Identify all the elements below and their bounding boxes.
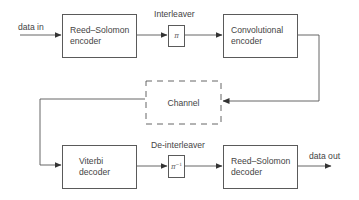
deinterleaver-block: π−1 xyxy=(168,155,185,178)
rs-encoder-block: Reed–Solomon encoder xyxy=(62,14,137,58)
convolutional-encoder-block: Convolutional encoder xyxy=(223,14,298,58)
rs-encoder-label: Reed–Solomon encoder xyxy=(70,25,129,47)
pi-inverse-symbol: π−1 xyxy=(171,162,182,171)
channel-block: Channel xyxy=(146,81,221,124)
rs-decoder-label: Reed–Solomon decoder xyxy=(231,156,290,178)
interleaver-block: π xyxy=(168,25,185,47)
interleaver-caption: Interleaver xyxy=(154,9,195,19)
viterbi-decoder-block: Viterbi decoder xyxy=(62,145,137,189)
deinterleaver-caption: De-interleaver xyxy=(151,140,205,150)
rs-decoder-block: Reed–Solomon decoder xyxy=(223,145,298,189)
pi-symbol: π xyxy=(174,32,179,40)
viterbi-label: Viterbi decoder xyxy=(79,156,110,178)
data-in-label: data in xyxy=(18,22,44,32)
data-out-label: data out xyxy=(309,151,340,161)
channel-label: Channel xyxy=(146,98,221,108)
conv-encoder-label: Convolutional encoder xyxy=(231,25,283,47)
